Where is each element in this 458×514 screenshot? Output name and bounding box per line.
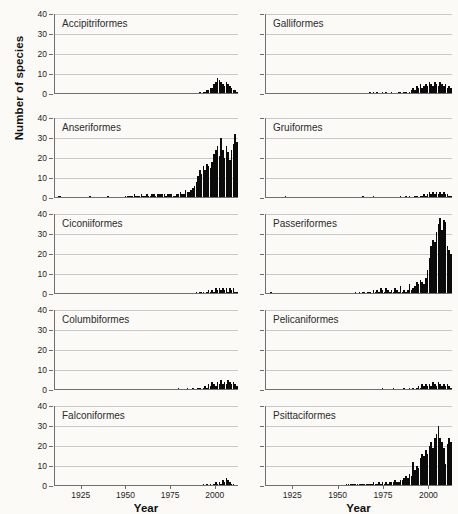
y-axis-tick [49,310,53,311]
x-axis-tick [383,486,384,489]
y-axis-tick [260,74,264,75]
y-axis-tick-label: 40 [38,113,47,123]
x-axis-tick [292,486,293,489]
chart-panel-falconiformes: 010203040Falconiformes1925195019752000Ye… [54,406,238,486]
panel-title: Passeriformes [273,218,337,229]
y-axis-tick-label: 20 [38,49,47,59]
y-axis-line [265,310,266,390]
y-axis-line [54,214,55,294]
y-axis-line [265,406,266,486]
y-axis-line [54,14,55,94]
chart-panel-pelicaniformes: Pelicaniformes [265,310,452,390]
y-axis-tick-label: 20 [38,441,47,451]
y-axis-tick-label: 0 [42,289,47,299]
y-axis-tick [260,330,264,331]
y-axis-tick [260,54,264,55]
x-axis-label: Year [346,502,370,514]
x-axis-tick [81,486,82,489]
y-axis-tick [260,310,264,311]
y-axis-tick [49,446,53,447]
y-axis-tick-label: 20 [38,249,47,259]
y-axis-tick [49,74,53,75]
y-axis-tick-label: 40 [38,401,47,411]
x-axis-tick [125,486,126,489]
panel-title: Ciconiiformes [62,218,123,229]
y-axis-tick [260,198,264,199]
panel-title: Columbiformes [62,314,129,325]
x-axis-line [265,293,452,294]
y-axis-tick-label: 20 [38,153,47,163]
x-axis-line [265,389,452,390]
y-axis-tick [260,274,264,275]
panel-title: Falconiformes [62,410,125,421]
x-axis-tick-label: 1975 [374,490,393,500]
x-axis-line [54,93,238,94]
panel-title: Gruiformes [273,122,322,133]
x-axis-line [54,197,238,198]
y-axis-tick-label: 10 [38,269,47,279]
x-axis-tick-label: 1925 [71,490,90,500]
y-axis-tick [260,294,264,295]
y-axis-tick-label: 40 [38,209,47,219]
y-axis-line [54,310,55,390]
y-axis-tick [49,214,53,215]
y-axis-tick [49,350,53,351]
y-axis-tick-label: 0 [42,193,47,203]
y-axis-tick [49,234,53,235]
y-axis-label-wrap: Number of species [14,0,32,400]
y-axis-tick-label: 40 [38,305,47,315]
y-axis-tick [260,214,264,215]
x-axis-tick-label: 1950 [116,490,135,500]
y-axis-tick [260,158,264,159]
y-axis-tick [49,94,53,95]
y-axis-tick [260,446,264,447]
y-axis-tick [49,370,53,371]
x-axis-tick-label: 1975 [161,490,180,500]
y-axis-tick [260,426,264,427]
y-axis-tick [260,466,264,467]
x-axis-tick-label: 2000 [419,490,438,500]
y-axis-tick [260,370,264,371]
y-axis-tick-label: 10 [38,365,47,375]
chart-panel-passeriformes: Passeriformes [265,214,452,294]
y-axis-tick-label: 0 [42,89,47,99]
chart-panel-accipitriformes: 010203040Accipitriformes [54,14,238,94]
x-axis-line [54,293,238,294]
y-axis-tick-label: 10 [38,173,47,183]
x-axis-tick-label: 1925 [283,490,302,500]
y-axis-tick [49,34,53,35]
y-axis-tick [260,350,264,351]
y-axis-tick [49,466,53,467]
y-axis-tick [260,390,264,391]
y-axis-tick [49,274,53,275]
x-axis-tick [428,486,429,489]
y-axis-tick [49,406,53,407]
y-axis-tick [260,486,264,487]
y-axis-line [54,406,55,486]
y-axis-tick-label: 30 [38,133,47,143]
chart-panel-anseriformes: 010203040Anseriformes [54,118,238,198]
y-axis-tick [49,118,53,119]
y-axis-tick [260,138,264,139]
chart-panel-galliformes: Galliformes [265,14,452,94]
y-axis-tick [49,14,53,15]
y-axis-tick-label: 30 [38,29,47,39]
y-axis-tick [49,254,53,255]
y-axis-tick [260,118,264,119]
y-axis-tick-label: 40 [38,9,47,19]
y-axis-tick [260,14,264,15]
y-axis-line [265,14,266,94]
x-axis-line [54,389,238,390]
panel-title: Anseriformes [62,122,121,133]
x-axis-label: Year [134,502,158,514]
y-axis-tick [49,330,53,331]
y-axis-tick [260,234,264,235]
figure-panel-grid: Number of species 010203040Accipitriform… [0,0,458,514]
chart-panel-gruiformes: Gruiformes [265,118,452,198]
y-axis-tick [49,178,53,179]
y-axis-tick [49,158,53,159]
chart-panel-columbiformes: 010203040Columbiformes [54,310,238,390]
y-axis-tick-label: 30 [38,421,47,431]
x-axis-line [265,93,452,94]
x-axis-tick [338,486,339,489]
